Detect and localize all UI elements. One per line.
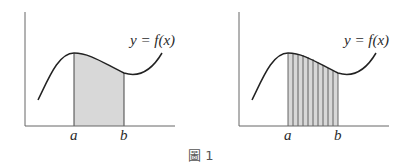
left-area-shaded (74, 53, 124, 126)
left-label-a: a (70, 127, 78, 143)
figure-caption: 圖 1 (188, 148, 213, 163)
right-label-b: b (334, 127, 342, 143)
left-panel: y = f(x) a b (25, 12, 175, 143)
left-curve-label: y = f(x) (128, 32, 175, 49)
figure-canvas: y = f(x) a b y = f(x) a b 圖 1 (0, 0, 405, 167)
right-label-a: a (284, 127, 292, 143)
left-label-b: b (120, 127, 128, 143)
right-curve-label: y = f(x) (342, 32, 389, 49)
right-panel: y = f(x) a b (239, 12, 389, 143)
